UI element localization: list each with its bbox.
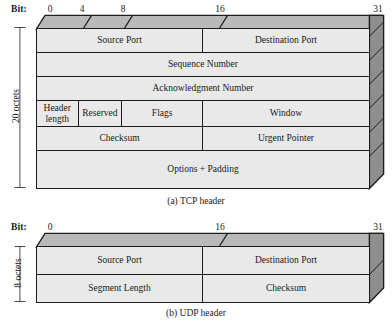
udp-field-destination-port: Destination Port xyxy=(203,247,369,274)
tcp-box-side-face xyxy=(368,14,386,190)
tcp-field-destination-port: Destination Port xyxy=(203,29,369,52)
tcp-bit-axis-label: Bit: xyxy=(11,4,27,15)
udp-header-table: Source Port Destination Port Segment Len… xyxy=(36,246,370,303)
tcp-size-bracket-cap-top xyxy=(15,27,26,28)
tcp-field-window: Window xyxy=(203,101,369,126)
tcp-field-acknowledgment-number-label: Acknowledgment Number xyxy=(151,83,254,94)
tcp-row-checksum: Checksum Urgent Pointer xyxy=(37,127,369,151)
tcp-field-flags-label: Flags xyxy=(151,108,174,119)
tcp-row-control: Header length Reserved Flags Window xyxy=(37,101,369,127)
tcp-field-checksum-label: Checksum xyxy=(98,133,140,144)
tcp-size-bracket-cap-bottom xyxy=(15,187,26,188)
udp-size-label: 8 octets xyxy=(13,247,23,299)
tcp-row-acknowledgment-number: Acknowledgment Number xyxy=(37,77,369,101)
udp-caption: (b) UDP header xyxy=(0,308,392,319)
udp-field-checksum: Checksum xyxy=(203,275,369,302)
udp-field-source-port: Source Port xyxy=(37,247,203,274)
tcp-field-reserved-label: Reserved xyxy=(81,108,118,119)
udp-row-ports: Source Port Destination Port xyxy=(37,247,369,275)
tcp-caption: (a) TCP header xyxy=(0,196,392,207)
tcp-field-source-port: Source Port xyxy=(37,29,203,52)
tcp-field-urgent-pointer-label: Urgent Pointer xyxy=(257,133,315,144)
tcp-field-header-length: Header length xyxy=(37,101,79,126)
udp-row-length-checksum: Segment Length Checksum xyxy=(37,275,369,302)
tcp-row-ports: Source Port Destination Port xyxy=(37,29,369,53)
udp-field-segment-length-label: Segment Length xyxy=(87,283,152,294)
tcp-field-checksum: Checksum xyxy=(37,127,203,150)
udp-box-side-face xyxy=(368,232,386,304)
udp-bit-axis-label: Bit: xyxy=(11,222,27,233)
tcp-field-destination-port-label: Destination Port xyxy=(254,35,318,46)
udp-field-destination-port-label: Destination Port xyxy=(254,255,318,266)
udp-field-source-port-label: Source Port xyxy=(96,255,143,266)
tcp-header-table: Source Port Destination Port Sequence Nu… xyxy=(36,28,370,189)
tcp-field-reserved: Reserved xyxy=(79,101,123,126)
tcp-field-window-label: Window xyxy=(269,108,303,119)
tcp-field-acknowledgment-number: Acknowledgment Number xyxy=(37,77,369,100)
udp-size-bracket-cap-bottom xyxy=(15,301,26,302)
tcp-field-source-port-label: Source Port xyxy=(96,35,143,46)
protocol-header-figure: Bit: 0 4 8 16 31 20 octets xyxy=(0,0,392,327)
tcp-field-urgent-pointer: Urgent Pointer xyxy=(203,127,369,150)
tcp-field-options-padding: Options + Padding xyxy=(37,151,369,188)
tcp-size-label: 20 octets xyxy=(11,76,21,136)
tcp-row-options: Options + Padding xyxy=(37,151,369,188)
tcp-row-sequence-number: Sequence Number xyxy=(37,53,369,77)
tcp-field-header-length-label: Header length xyxy=(37,103,78,124)
tcp-field-flags: Flags xyxy=(122,101,203,126)
tcp-field-sequence-number: Sequence Number xyxy=(37,53,369,76)
tcp-field-options-padding-label: Options + Padding xyxy=(166,164,239,175)
tcp-field-sequence-number-label: Sequence Number xyxy=(167,59,239,70)
udp-field-checksum-label: Checksum xyxy=(265,283,307,294)
udp-field-segment-length: Segment Length xyxy=(37,275,203,302)
